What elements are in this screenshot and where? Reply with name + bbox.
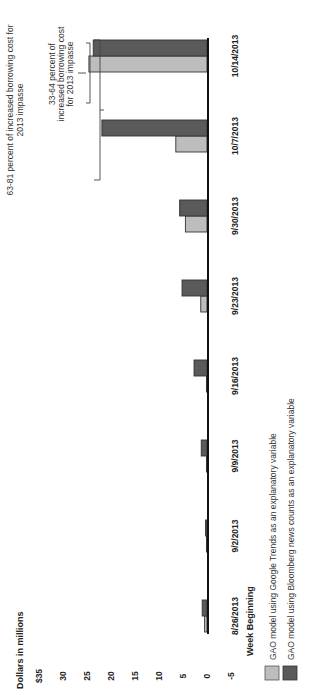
x-category-label: 9/30/2013: [230, 197, 240, 235]
y-tick-label: $35: [34, 669, 44, 683]
annotation-2-line3: for 2013 impasse: [65, 41, 75, 106]
annotation-bracket-2: [86, 43, 90, 103]
x-category-label: 9/23/2013: [230, 277, 240, 315]
bar-bloomberg: [206, 520, 207, 536]
y-tick-label: 15: [130, 671, 140, 681]
bar-google-trends: [205, 616, 207, 632]
bar-bloomberg: [194, 360, 207, 376]
y-axis-title: Dollars in millions: [15, 611, 25, 689]
chart-stage: Dollars in millions -5051015202530$35 8/…: [0, 0, 310, 698]
x-category-label: 9/16/2013: [230, 357, 240, 395]
bar-google-trends: [201, 296, 207, 312]
bar-bloomberg: [180, 200, 207, 216]
bar-series: [89, 40, 207, 632]
x-category-label: 10/14/2013: [230, 34, 240, 77]
x-category-label: 9/9/2013: [230, 439, 240, 472]
x-category-label: 10/7/2013: [230, 117, 240, 155]
annotation-1-line2: 2013 impasse: [15, 83, 25, 136]
bar-bloomberg: [202, 600, 207, 616]
legend-swatch-bloomberg: [283, 666, 297, 680]
y-tick-label: 20: [106, 671, 116, 681]
bar-bloomberg: [201, 440, 207, 456]
x-category-label: 8/26/2013: [230, 597, 240, 635]
y-tick-label: 30: [58, 671, 68, 681]
y-tick-label: -5: [226, 672, 236, 680]
bar-google-trends: [176, 136, 207, 152]
legend-label-google: GAO model using Google Trends as an expl…: [268, 433, 278, 660]
legend: GAO model using Google Trends as an expl…: [265, 398, 297, 680]
y-tick-labels: -5051015202530$35: [34, 669, 236, 683]
annotation-33-64-percent: 33-64 percent of increased borrowing cos…: [47, 26, 90, 121]
legend-swatch-google: [265, 666, 279, 680]
x-axis-title: Week Beginning: [245, 586, 255, 656]
y-tick-label: 25: [82, 671, 92, 681]
y-tick-label: 0: [202, 673, 212, 678]
y-tick-label: 10: [154, 671, 164, 681]
legend-label-bloomberg: GAO model using Bloomberg news counts as…: [286, 398, 296, 660]
bar-bloomberg: [182, 280, 207, 296]
annotation-1-line1: 63-81 percent of increased borrowing cos…: [5, 24, 15, 195]
bar-google-trends: [89, 56, 207, 72]
x-category-labels: 8/26/20139/2/20139/9/20139/16/20139/23/2…: [230, 34, 240, 634]
bar-bloomberg: [102, 120, 207, 136]
bar-chart: Dollars in millions -5051015202530$35 8/…: [0, 0, 310, 698]
bar-google-trends: [185, 216, 207, 232]
y-tick-label: 5: [178, 673, 188, 678]
x-category-label: 9/2/2013: [230, 519, 240, 552]
bar-bloomberg: [93, 40, 207, 56]
